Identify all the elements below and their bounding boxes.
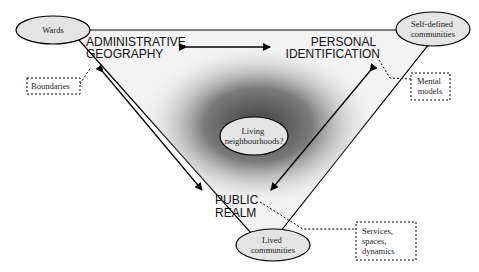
mental-models-note: Mental models [417,76,443,96]
boundaries-note: Boundaries [31,81,70,91]
public-realm-label: PUBLIC REALM [215,193,262,220]
diagram-canvas: ADMINISTRATIVE GEOGRAPHY PERSONAL IDENTI… [0,0,479,272]
boundaries-connector [80,67,91,84]
self-defined-communities-label: Self-defined communities [411,19,455,39]
wards-label: Wards [42,25,64,35]
